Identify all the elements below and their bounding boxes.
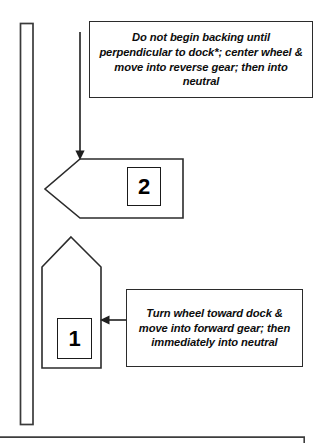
callout-top-text: Do not begin backing until perpendicular… <box>97 30 305 88</box>
arrow-left-to-vessel-1-icon <box>100 315 126 324</box>
vessel-2-shape <box>45 159 183 218</box>
vessel-1-number: 1 <box>68 326 80 352</box>
callout-backing-instruction: Do not begin backing until perpendicular… <box>89 21 313 98</box>
vessel-1-number-box: 1 <box>57 318 92 359</box>
vessel-2-number: 2 <box>138 174 150 200</box>
page-bottom-rule <box>0 437 305 443</box>
vessel-2-number-box: 2 <box>127 167 161 206</box>
callout-turning-instruction: Turn wheel toward dock & move into forwa… <box>126 289 303 367</box>
callout-bottom-text: Turn wheel toward dock & move into forwa… <box>133 306 296 350</box>
dock-shape <box>21 24 34 425</box>
docking-diagram: Do not begin backing until perpendicular… <box>0 0 328 446</box>
arrow-down-to-vessel-2-icon <box>75 32 84 160</box>
